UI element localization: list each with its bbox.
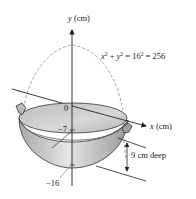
tick-label-minus-16: −16 [46, 179, 59, 188]
y-axis-label: y (cm) [68, 14, 90, 23]
x-axis-label: x (cm) [150, 122, 172, 131]
depth-label: 9 cm deep [131, 151, 166, 160]
sphere-equation: x2 + y2 = 162 = 256 [101, 52, 165, 61]
tick-label-origin: 0 [64, 104, 68, 113]
tick-label-minus-7: −7 [58, 125, 67, 134]
depth-bottom-line [96, 166, 146, 181]
bowl-rim-inner [19, 103, 127, 133]
wok-diagram [0, 0, 196, 199]
depth-top-line [118, 138, 146, 148]
right-handle [122, 123, 132, 133]
